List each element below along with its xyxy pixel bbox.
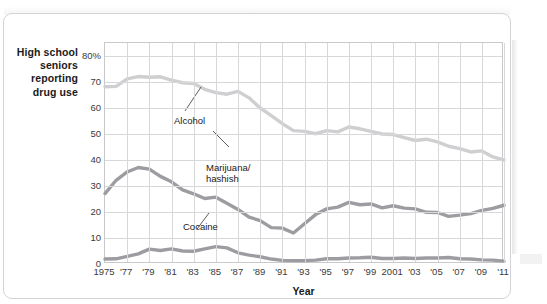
gridline-vertical <box>349 43 350 262</box>
gridline-horizontal <box>105 134 502 135</box>
series-label-alcohol: Alcohol <box>174 115 205 126</box>
gridline-horizontal <box>105 212 502 213</box>
gridline-vertical <box>393 43 394 262</box>
gridline-horizontal <box>105 82 502 83</box>
series-label-marijuana-line-2: hashish <box>206 173 250 184</box>
gridline-vertical <box>238 43 239 262</box>
gridline-vertical <box>260 43 261 262</box>
y-axis-tick-label: 60 <box>65 102 101 113</box>
x-axis-tick-label: '81 <box>164 266 176 277</box>
x-axis-tick-label: '97 <box>342 266 354 277</box>
x-axis-tick-label: '87 <box>231 266 243 277</box>
y-axis-tick-labels: 01020304050607080% <box>60 42 101 263</box>
x-axis-tick-label: '05 <box>430 266 442 277</box>
x-axis-tick-labels: 1975'77'79'81'83'85'87'89'91'93'95'97'99… <box>104 266 503 280</box>
series-label-marijuana-line-1: Marijuana/ <box>206 162 250 173</box>
x-axis-tick-label: '93 <box>297 266 309 277</box>
x-axis-tick-label: 1975 <box>93 266 114 277</box>
x-axis-tick-label: '83 <box>186 266 198 277</box>
series-label-cocaine: Cocaine <box>183 221 218 232</box>
gridline-vertical <box>149 43 150 262</box>
gridline-vertical <box>438 43 439 262</box>
x-axis-tick-label: '09 <box>475 266 487 277</box>
x-axis-tick-label: '85 <box>209 266 221 277</box>
gridline-horizontal <box>105 160 502 161</box>
gridline-vertical <box>127 43 128 262</box>
gridline-vertical <box>415 43 416 262</box>
gridline-vertical <box>172 43 173 262</box>
y-axis-tick-label: 20 <box>65 206 101 217</box>
gridline-horizontal <box>105 186 502 187</box>
x-axis-tick-label: '79 <box>142 266 154 277</box>
gridline-vertical <box>371 43 372 262</box>
x-axis-tick-label: '03 <box>408 266 420 277</box>
x-axis-tick-label: 2001 <box>382 266 403 277</box>
y-axis-tick-label: 80% <box>65 50 101 61</box>
gridline-vertical <box>305 43 306 262</box>
gridline-horizontal <box>105 56 502 57</box>
y-axis-tick-label: 70 <box>65 76 101 87</box>
y-axis-tick-label: 40 <box>65 154 101 165</box>
series-label-marijuana: Marijuana/ hashish <box>206 162 250 184</box>
x-axis-title: Year <box>104 285 503 297</box>
y-axis-tick-label: 50 <box>65 128 101 139</box>
gridline-vertical <box>282 43 283 262</box>
x-axis-tick-label: '91 <box>275 266 287 277</box>
x-axis-tick-label: '07 <box>452 266 464 277</box>
gridline-horizontal <box>105 108 502 109</box>
x-axis-tick-label: '95 <box>319 266 331 277</box>
x-axis-tick-label: '77 <box>120 266 132 277</box>
card-right-shadow <box>512 40 518 254</box>
chart-figure: High school seniors reporting drug use 0… <box>0 0 547 304</box>
gridline-horizontal <box>105 238 502 239</box>
gridline-vertical <box>327 43 328 262</box>
card-bottom-shadow <box>520 254 542 264</box>
x-axis-tick-label: '99 <box>364 266 376 277</box>
y-axis-tick-label: 30 <box>65 180 101 191</box>
x-axis-tick-label: '11 <box>497 266 509 277</box>
gridline-vertical <box>482 43 483 262</box>
y-axis-tick-label: 10 <box>65 232 101 243</box>
gridline-vertical <box>460 43 461 262</box>
x-axis-tick-label: '89 <box>253 266 265 277</box>
gridline-vertical <box>504 43 505 262</box>
plot-area <box>104 42 503 263</box>
